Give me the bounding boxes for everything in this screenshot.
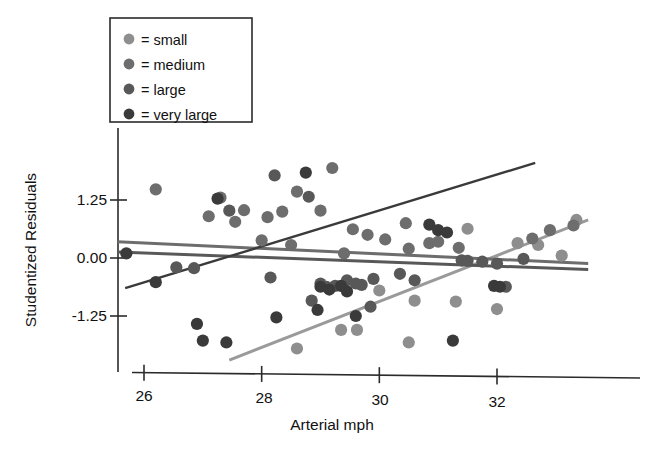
data-point-medium — [526, 232, 538, 244]
data-point-medium — [238, 204, 250, 216]
data-point-large — [367, 273, 379, 285]
data-point-medium — [203, 210, 215, 222]
data-point-medium — [567, 219, 579, 231]
data-point-very-large — [120, 247, 132, 259]
data-point-small — [335, 324, 347, 336]
data-point-medium — [432, 236, 444, 248]
data-point-medium — [229, 216, 241, 228]
data-point-very-large — [220, 336, 232, 348]
data-point-very-large — [341, 285, 353, 297]
data-point-large — [223, 205, 235, 217]
x-axis-title: Arterial mph — [290, 416, 374, 433]
data-point-very-large — [270, 311, 282, 323]
data-point-large — [303, 191, 315, 203]
y-tick-label-1-25: 1.25 — [77, 191, 107, 208]
data-points-group — [120, 162, 582, 355]
data-point-large — [409, 274, 421, 286]
data-point-medium — [379, 233, 391, 245]
data-point-medium — [453, 242, 465, 254]
regression-line-very-large — [125, 163, 535, 288]
data-point-large — [461, 255, 473, 267]
data-point-large — [264, 271, 276, 283]
data-point-small — [461, 223, 473, 235]
data-point-very-large — [300, 167, 312, 179]
data-point-large — [491, 257, 503, 269]
data-point-very-large — [350, 310, 362, 322]
data-point-small — [409, 295, 421, 307]
data-point-large — [394, 268, 406, 280]
legend-label-large: = large — [141, 82, 186, 98]
data-point-very-large — [323, 283, 335, 295]
data-point-large — [170, 261, 182, 273]
data-point-small — [373, 284, 385, 296]
data-point-very-large — [494, 281, 506, 293]
plot-canvas: 26 28 30 32 1.25 0.00 -1.25 Arterial mph… — [0, 0, 646, 465]
y-axis-title: Studentized Residuals — [22, 173, 39, 327]
data-point-large — [476, 256, 488, 268]
data-point-small — [403, 336, 415, 348]
data-point-very-large — [197, 334, 209, 346]
data-point-large — [356, 279, 368, 291]
data-point-medium — [400, 217, 412, 229]
data-point-medium — [256, 234, 268, 246]
data-point-small — [556, 250, 568, 262]
data-point-small — [291, 342, 303, 354]
data-point-small — [491, 303, 503, 315]
data-point-medium — [403, 243, 415, 255]
data-point-medium — [361, 229, 373, 241]
data-point-medium — [314, 205, 326, 217]
legend-label-small: = small — [141, 32, 187, 48]
data-point-very-large — [211, 193, 223, 205]
data-point-small — [351, 324, 363, 336]
legend-label-very-large: = very large — [141, 107, 217, 123]
x-axis-line — [132, 373, 640, 379]
data-point-medium — [285, 239, 297, 251]
data-point-very-large — [191, 318, 203, 330]
legend-marker-medium — [124, 59, 135, 70]
data-point-small — [450, 296, 462, 308]
legend-label-medium: = medium — [141, 57, 205, 73]
data-point-very-large — [150, 276, 162, 288]
data-point-medium — [544, 224, 556, 236]
x-tick-label-28: 28 — [255, 389, 272, 406]
data-point-medium — [291, 186, 303, 198]
data-point-large — [269, 169, 281, 181]
data-point-very-large — [447, 334, 459, 346]
data-point-medium — [261, 211, 273, 223]
data-point-medium — [326, 162, 338, 174]
x-tick-label-26: 26 — [135, 387, 152, 404]
legend-marker-large — [124, 84, 135, 95]
data-point-medium — [338, 247, 350, 259]
data-point-very-large — [441, 226, 453, 238]
scatter-plot-figure: 26 28 30 32 1.25 0.00 -1.25 Arterial mph… — [0, 0, 646, 465]
data-point-very-large — [311, 304, 323, 316]
data-point-large — [188, 262, 200, 274]
data-point-small — [511, 237, 523, 249]
legend-marker-small — [124, 34, 135, 45]
data-point-large — [517, 253, 529, 265]
data-point-medium — [150, 183, 162, 195]
data-point-large — [364, 301, 376, 313]
legend-marker-very-large — [124, 109, 135, 120]
y-tick-label-neg-1-25: -1.25 — [72, 307, 107, 324]
y-tick-label-0-00: 0.00 — [77, 249, 108, 266]
data-point-medium — [276, 206, 288, 218]
x-tick-label-32: 32 — [488, 393, 505, 410]
x-tick-label-30: 30 — [371, 391, 389, 408]
data-point-medium — [347, 223, 359, 235]
